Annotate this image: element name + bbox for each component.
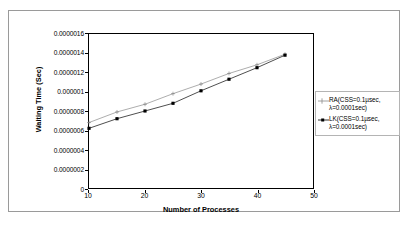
data-point-marker	[87, 121, 91, 125]
x-tick-mark	[201, 190, 202, 193]
chart-legend: RA(CSS=0.1µsec, λ=0.0001sec) LK(CSS=0.1µ…	[315, 91, 400, 136]
data-point-marker	[227, 71, 231, 75]
legend-label-ra: RA(CSS=0.1µsec, λ=0.0001sec)	[329, 96, 380, 112]
legend-item-lk: LK(CSS=0.1µsec, λ=0.0001sec)	[318, 115, 396, 131]
y-tick-label: 0.0000012	[54, 69, 84, 76]
x-tick-label: 50	[310, 192, 318, 199]
legend-label-lk: LK(CSS=0.1µsec, λ=0.0001sec)	[329, 115, 379, 131]
data-point-marker	[143, 109, 146, 112]
chart-figure: 00.00000020.00000040.00000060.00000080.0…	[0, 0, 410, 228]
data-point-marker	[283, 54, 286, 57]
series-canvas	[89, 34, 313, 188]
y-tick-mark	[85, 92, 88, 93]
x-axis-title: Number of Processes	[88, 205, 314, 214]
y-tick-label: 0.0000004	[54, 147, 84, 154]
plot-area	[88, 33, 314, 189]
data-point-marker	[227, 78, 230, 81]
figure-border: 00.00000020.00000040.00000060.00000080.0…	[8, 10, 400, 212]
x-axis-tick-labels: 1020304050	[88, 192, 314, 204]
y-tick-mark	[85, 111, 88, 112]
y-tick-mark	[85, 131, 88, 132]
y-tick-label: 0.0000016	[54, 30, 84, 37]
legend-item-ra: RA(CSS=0.1µsec, λ=0.0001sec)	[318, 96, 396, 112]
y-tick-label: 0.0000006	[54, 127, 84, 134]
data-point-marker	[115, 110, 119, 114]
y-axis-tick-labels: 00.00000020.00000040.00000060.00000080.0…	[9, 33, 84, 189]
y-axis-title: Waiting Time (Sec)	[34, 40, 43, 160]
y-tick-mark	[85, 150, 88, 151]
y-tick-label: 0.000001	[57, 88, 84, 95]
data-point-marker	[199, 89, 202, 92]
y-tick-label: 0.0000002	[54, 166, 84, 173]
x-tick-mark	[145, 190, 146, 193]
x-tick-mark	[88, 190, 89, 193]
data-point-marker	[199, 82, 203, 86]
data-point-marker	[255, 66, 258, 69]
x-tick-mark	[258, 190, 259, 193]
y-tick-label: 0.0000008	[54, 108, 84, 115]
y-tick-mark	[85, 33, 88, 34]
x-tick-label: 30	[197, 192, 205, 199]
x-tick-label: 20	[141, 192, 149, 199]
y-tick-mark	[85, 170, 88, 171]
data-point-marker	[171, 92, 175, 96]
x-tick-label: 10	[84, 192, 92, 199]
data-point-marker	[87, 127, 90, 130]
y-tick-mark	[85, 72, 88, 73]
plus-marker-icon	[318, 97, 329, 105]
y-tick-mark	[85, 53, 88, 54]
data-point-marker	[171, 102, 174, 105]
square-marker-icon	[318, 116, 329, 124]
y-tick-label: 0.0000014	[54, 49, 84, 56]
data-point-marker	[143, 102, 147, 106]
x-tick-label: 40	[254, 192, 262, 199]
x-tick-mark	[314, 190, 315, 193]
data-point-marker	[115, 117, 118, 120]
y-axis-title-wrapper: Waiting Time (Sec)	[23, 33, 37, 189]
